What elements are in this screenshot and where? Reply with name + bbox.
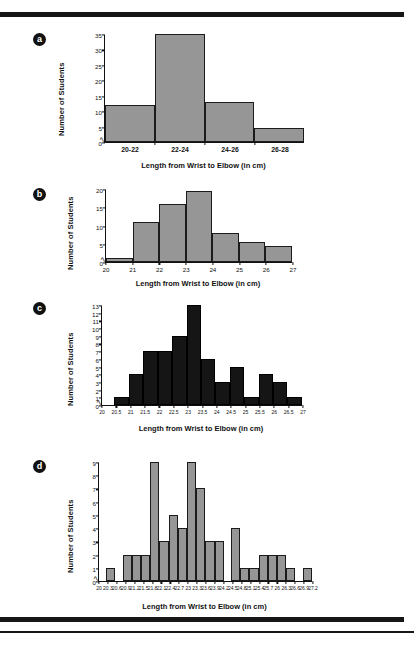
y-axis-tick-mark [99, 382, 102, 383]
y-axis-tick-mark [96, 568, 99, 569]
bar [259, 374, 273, 405]
x-axis-tick-mark [134, 581, 135, 584]
bar [240, 568, 249, 581]
chart-b-axis-break: ∿ [100, 256, 107, 264]
x-axis-category-label: 22-24 [171, 142, 188, 153]
bottom-divider-rule-thin [0, 631, 414, 633]
y-axis-tick-mark [99, 321, 102, 322]
bar [268, 555, 277, 581]
x-axis-tick-mark [268, 581, 269, 584]
chart-a-bars [105, 35, 304, 142]
x-axis-tick-mark [245, 405, 246, 408]
x-axis-tick-mark [232, 581, 233, 584]
x-axis-category-label: 24-26 [221, 142, 238, 153]
y-axis-tick-mark [99, 367, 102, 368]
chart-d-axis-break: ∿ [93, 575, 100, 583]
x-axis-tick-mark [186, 262, 187, 265]
x-axis-tick-mark [144, 405, 145, 408]
bar [141, 555, 150, 581]
bar [114, 397, 128, 405]
bar [196, 488, 205, 581]
bar [239, 242, 266, 262]
x-axis-tick-mark [188, 581, 189, 584]
x-axis-tick-mark [161, 581, 162, 584]
chart-d: Number of Students 0123456789 2020.320.6… [0, 440, 419, 615]
chart-c-plot-area: 012345678910111213 2020.52121.52222.5232… [101, 306, 302, 406]
y-axis-tick-mark [99, 336, 102, 337]
x-axis-tick-mark [223, 581, 224, 584]
chart-c: Number of Students 012345678910111213 20… [0, 300, 419, 440]
bar [169, 515, 178, 581]
x-axis-tick-mark [125, 581, 126, 584]
y-axis-tick-mark [96, 529, 99, 530]
panel-a: a Number of Students 05101520253035 20-2… [0, 0, 419, 178]
bar [105, 105, 155, 142]
bar [155, 34, 205, 142]
bar [172, 336, 186, 405]
x-axis-tick-mark [116, 581, 117, 584]
chart-d-y-axis-label: Number of Students [66, 468, 75, 573]
x-axis-tick-mark [239, 262, 240, 265]
y-axis-tick-mark [99, 313, 102, 314]
x-axis-tick-mark [116, 405, 117, 408]
bar [259, 555, 268, 581]
y-axis-tick-mark [96, 502, 99, 503]
y-axis-tick-mark [99, 359, 102, 360]
y-axis-tick-mark [96, 462, 99, 463]
y-axis-tick-mark [99, 328, 102, 329]
chart-b-plot-area: 05101520 2021222324252627 ∿ [105, 190, 292, 263]
x-axis-tick-mark [277, 581, 278, 584]
y-axis-tick-mark [102, 50, 105, 51]
bar [143, 351, 157, 405]
chart-a-plot-area: 05101520253035 20-2222-2424-2626-28 ∿ [104, 35, 304, 143]
panel-b: b Number of Students 05101520 2021222324… [0, 178, 419, 300]
x-axis-category-label: 26-28 [271, 142, 288, 153]
bar [129, 374, 143, 405]
y-axis-tick-mark [102, 34, 105, 35]
chart-b-bars [106, 190, 292, 262]
bar [244, 397, 258, 405]
y-axis-tick-mark [99, 390, 102, 391]
bar [215, 382, 229, 405]
x-axis-tick-mark [179, 581, 180, 584]
y-axis-tick-mark [99, 344, 102, 345]
chart-d-bars [99, 463, 312, 581]
bar [205, 102, 255, 142]
bar [187, 305, 201, 405]
bottom-divider-rule-thick [0, 617, 404, 622]
x-axis-tick-mark [241, 581, 242, 584]
bar [212, 233, 239, 262]
x-axis-tick-mark [202, 405, 203, 408]
bar [159, 541, 168, 581]
chart-b-y-axis-label: Number of Students [66, 188, 75, 270]
x-axis-tick-mark [250, 581, 251, 584]
y-axis-tick-mark [102, 127, 105, 128]
chart-c-x-axis-label: Length from Wrist to Elbow (in cm) [96, 424, 306, 433]
bar [287, 397, 301, 405]
x-axis-tick-mark [152, 581, 153, 584]
bar [132, 555, 141, 581]
panel-c: c Number of Students 012345678910111213 … [0, 300, 419, 440]
x-axis-tick-mark [107, 581, 108, 584]
bar [178, 528, 187, 581]
y-axis-tick-mark [102, 81, 105, 82]
y-axis-tick-mark [96, 476, 99, 477]
bar [265, 246, 292, 262]
y-axis-tick-mark [103, 244, 106, 245]
y-axis-tick-mark [96, 489, 99, 490]
x-axis-tick-mark [259, 581, 260, 584]
bar [254, 128, 304, 142]
bar [106, 568, 115, 581]
x-axis-tick-mark [196, 581, 197, 584]
bar [123, 555, 132, 581]
bar [230, 367, 244, 405]
x-axis-tick-mark [188, 405, 189, 408]
chart-b-x-axis-label: Length from Wrist to Elbow (in cm) [100, 279, 296, 288]
x-axis-tick-mark [231, 405, 232, 408]
x-axis-tick-mark [288, 405, 289, 408]
bar [249, 568, 258, 581]
y-axis-tick-mark [103, 208, 106, 209]
bar [273, 382, 287, 405]
x-axis-tick-mark [212, 262, 213, 265]
y-axis-tick-mark [103, 189, 106, 190]
